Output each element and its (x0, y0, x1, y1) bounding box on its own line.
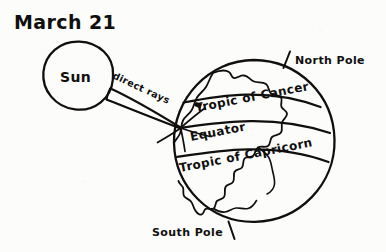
ray-line-lower (107, 100, 181, 129)
diagram-canvas: Sun direct rays (0, 0, 386, 252)
label-tropic-of-cancer: Tropic of Cancer (194, 79, 310, 115)
ray-spread-down (181, 129, 185, 152)
label-south-pole: South Pole (152, 226, 223, 239)
label-north-pole: North Pole (295, 54, 365, 67)
south-pole-leader-line (229, 222, 235, 240)
ray-spread-lower (158, 128, 181, 142)
continent-detail-south-tip (214, 201, 257, 213)
page-title: March 21 (14, 11, 116, 33)
north-pole-leader-line (284, 52, 291, 69)
equinox-diagram-svg: Sun direct rays (0, 0, 386, 252)
sun-label: Sun (60, 69, 91, 85)
direct-rays-label: direct rays (111, 70, 172, 106)
sun-group: Sun (43, 42, 113, 110)
